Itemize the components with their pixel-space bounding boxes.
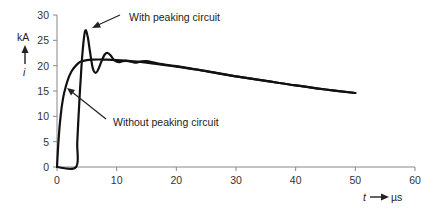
- x-tick-label: 20: [170, 174, 182, 186]
- y-tick-label: 20: [37, 60, 49, 72]
- y-tick-label: 15: [37, 85, 49, 97]
- annotation-without-arrow-icon: [67, 88, 106, 119]
- y-tick-label: 25: [37, 34, 49, 46]
- x-tick-label: 40: [290, 174, 302, 186]
- y-tick-label: 0: [43, 161, 49, 173]
- x-axis: 0102030405060: [54, 167, 421, 186]
- x-tick-label: 10: [111, 174, 123, 186]
- x-tick-label: 0: [54, 174, 60, 186]
- x-axis-arrow-icon: [370, 194, 389, 201]
- plot-curves: [57, 30, 355, 169]
- x-unit-label: µs: [391, 191, 402, 203]
- annotation-without-peaking: Without peaking circuit: [113, 116, 219, 128]
- x-tick-label: 30: [230, 174, 242, 186]
- annotation-with-arrow-icon: [92, 15, 120, 28]
- curve-with-peaking: [57, 30, 355, 169]
- y-tick-label: 10: [37, 110, 49, 122]
- y-symbol-label: i: [23, 66, 26, 78]
- y-tick-label: 30: [37, 9, 49, 21]
- y-axis-arrow-icon: [22, 45, 29, 64]
- current-vs-time-chart: 051015202530 0102030405060 kA i t µs Wit…: [0, 0, 437, 212]
- annotation-with-peaking: With peaking circuit: [129, 11, 220, 23]
- x-tick-label: 60: [409, 174, 421, 186]
- y-unit-label: kA: [17, 31, 29, 43]
- y-axis: 051015202530: [37, 9, 57, 173]
- curve-without-peaking: [57, 60, 355, 167]
- y-tick-label: 5: [43, 136, 49, 148]
- x-tick-label: 50: [349, 174, 361, 186]
- x-symbol-label: t: [363, 191, 367, 203]
